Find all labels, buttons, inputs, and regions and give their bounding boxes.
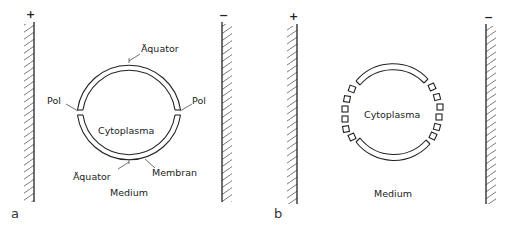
- cytoplasm-label-a: Cytoplasma: [98, 125, 154, 136]
- panel-label-a: a: [11, 206, 19, 221]
- cytoplasm-label-b: Cytoplasma: [364, 109, 420, 120]
- panel-b: + −: [274, 10, 496, 221]
- positive-electrode-a: +: [24, 8, 35, 202]
- leader-lines-a: [66, 54, 192, 169]
- pole-label-right: Pol: [192, 95, 206, 106]
- equator-label-top: Äquator: [141, 43, 179, 54]
- cell-membrane-a: [78, 65, 181, 160]
- minus-sign: −: [484, 11, 493, 24]
- minus-sign: −: [219, 9, 228, 22]
- plus-sign: +: [26, 8, 35, 21]
- equator-label-bottom: Äquator: [73, 171, 111, 182]
- diagram-canvas: + −: [0, 0, 512, 227]
- negative-electrode-a: −: [219, 9, 232, 202]
- medium-label-b: Medium: [374, 188, 412, 199]
- pole-label-left: Pol: [47, 95, 61, 106]
- negative-electrode-b: −: [484, 11, 496, 204]
- membrane-label: Membran: [152, 167, 197, 178]
- positive-electrode-b: +: [287, 10, 298, 204]
- medium-label-a: Medium: [110, 187, 148, 198]
- panel-label-b: b: [274, 206, 282, 221]
- plus-sign: +: [289, 10, 298, 23]
- panel-a: + −: [11, 8, 232, 221]
